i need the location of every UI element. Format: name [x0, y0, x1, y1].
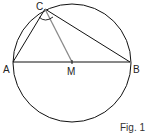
segment-ac	[13, 9, 45, 62]
geometry-figure: C A M B Fig. 1	[0, 0, 151, 134]
label-b: B	[133, 64, 140, 75]
segment-cb	[45, 9, 130, 62]
label-a: A	[3, 64, 10, 75]
label-m: M	[67, 66, 75, 77]
figure-caption: Fig. 1	[120, 122, 145, 133]
label-c: C	[36, 1, 43, 12]
